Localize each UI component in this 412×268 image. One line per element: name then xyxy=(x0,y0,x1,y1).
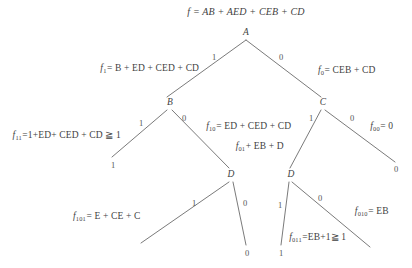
terminal-t-00: 0 xyxy=(394,165,398,174)
branch-label-D2-left: 1 xyxy=(278,201,282,210)
formula-f010: f010= EB xyxy=(355,207,389,217)
tree-node-B: B xyxy=(167,98,173,108)
tree-edge-B-to-D1 xyxy=(172,110,229,168)
tree-node-C: C xyxy=(320,98,326,108)
branch-label-A-left: 1 xyxy=(212,53,216,62)
branch-label-D1-right: 0 xyxy=(243,199,247,208)
tree-node-A: A xyxy=(243,28,249,38)
tree-edge-C-to-D2 xyxy=(290,110,321,168)
terminal-t-100: 0 xyxy=(245,249,249,258)
formula-f01: f01+ EB + D xyxy=(236,142,285,152)
branch-label-B-left: 1 xyxy=(139,119,143,128)
binary-decision-tree: f = AB + AED + CEB + CD ABCDD10101010101… xyxy=(0,0,412,268)
formula-f1: f1= B + ED + CED + CD xyxy=(100,64,199,74)
formula-f11: f11=1+ED+ CED + CD ≧ 1 xyxy=(13,131,122,141)
formula-f10: f10= ED + CED + CD xyxy=(206,122,292,132)
terminal-t-11: 1 xyxy=(111,161,115,170)
root-formula: f = AB + AED + CEB + CD xyxy=(187,7,304,17)
tree-edge-C-to-zero xyxy=(325,110,395,162)
tree-edge-A-to-C xyxy=(246,40,321,97)
formula-f011: f011=EB+1≧ 1 xyxy=(289,233,347,243)
branch-label-C-right: 0 xyxy=(350,114,354,123)
formula-f00: f00= 0 xyxy=(370,122,393,132)
formula-f0: f0= CEB + CD xyxy=(318,66,376,76)
branch-label-D1-left: 1 xyxy=(192,199,196,208)
branch-label-B-right: 0 xyxy=(182,114,186,123)
tree-node-D2: D xyxy=(288,170,295,180)
terminal-t-011: 1 xyxy=(279,249,283,258)
tree-node-D1: D xyxy=(228,170,235,180)
formula-f101: f101= E + CE + C xyxy=(73,212,141,222)
tree-edge-D1-to-zero xyxy=(233,182,246,245)
tree-edge-D2-to-one xyxy=(281,182,289,245)
tree-edge-D1-to-left xyxy=(141,182,229,243)
branch-label-C-left: 1 xyxy=(309,114,313,123)
branch-label-A-right: 0 xyxy=(279,53,283,62)
branch-label-D2-right: 0 xyxy=(318,194,322,203)
